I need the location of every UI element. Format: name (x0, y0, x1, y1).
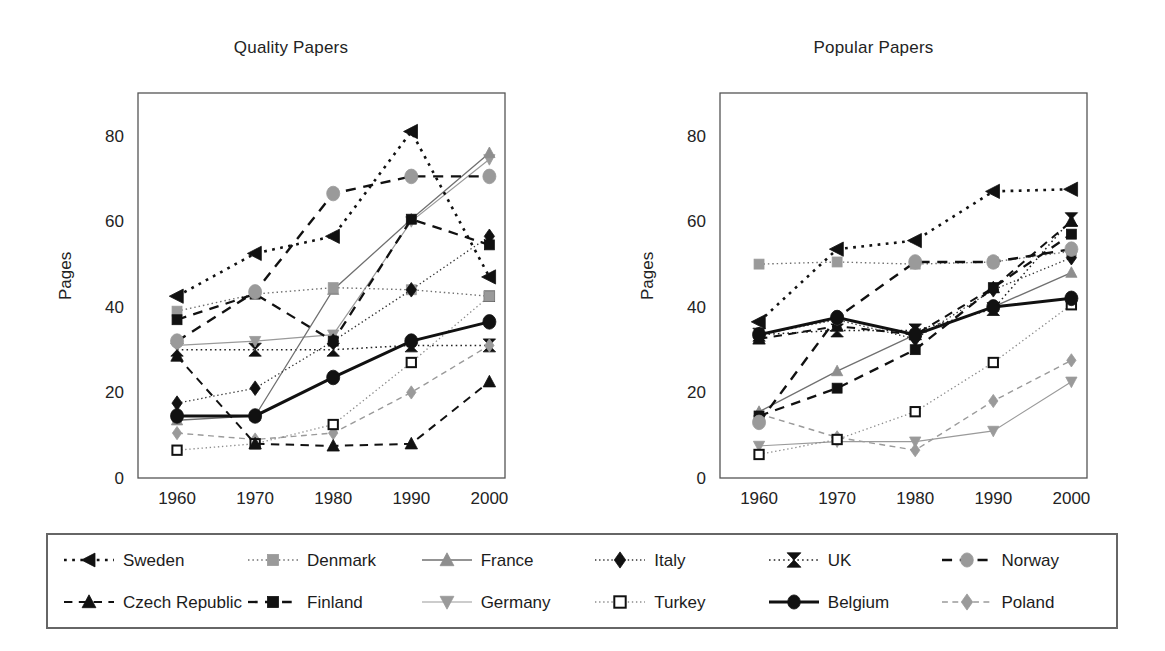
chart-panel-quality: Quality Papers Pages 0204060801960197019… (0, 0, 582, 520)
y-tick-label: 20 (105, 383, 124, 402)
y-tick-label: 60 (105, 212, 124, 231)
plot-area-popular: 02040608019601970198019902000 (582, 0, 1165, 520)
y-tick-label: 40 (105, 298, 124, 317)
legend-label: France (481, 552, 534, 569)
legend-box: SwedenDenmarkFranceItalyUKNorwayCzech Re… (46, 533, 1118, 629)
legend-item-turkey[interactable]: Turkey (589, 592, 763, 612)
x-tick-label: 1990 (392, 489, 430, 508)
legend-label: Italy (654, 552, 685, 569)
x-tick-label: 2000 (470, 489, 508, 508)
legend-label: Finland (307, 594, 363, 611)
diamond-marker (940, 592, 994, 612)
legend-label: Sweden (123, 552, 184, 569)
legend-item-germany[interactable]: Germany (416, 592, 590, 612)
x-tick-label: 1990 (974, 489, 1012, 508)
legend-item-finland[interactable]: Finland (242, 592, 416, 612)
legend-label: Poland (1001, 594, 1054, 611)
x-tick-label: 1960 (740, 489, 778, 508)
diamond-marker (593, 550, 647, 570)
x-tick-label: 2000 (1052, 489, 1090, 508)
x-tick-label: 1980 (896, 489, 934, 508)
down-triangle-marker (420, 592, 474, 612)
series-denmark (172, 283, 494, 316)
legend-item-france[interactable]: France (416, 550, 590, 570)
legend-label: Czech Republic (123, 594, 242, 611)
legend-label: Turkey (654, 594, 705, 611)
figure-root: Quality Papers Pages 0204060801960197019… (0, 0, 1165, 651)
left-triangle-marker (62, 550, 116, 570)
circle-marker (940, 550, 994, 570)
legend-item-italy[interactable]: Italy (589, 550, 763, 570)
y-tick-label: 60 (687, 212, 706, 231)
legend-item-uk[interactable]: UK (763, 550, 937, 570)
series-germany (171, 155, 495, 352)
square-marker (246, 592, 300, 612)
bowtie-marker (767, 550, 821, 570)
legend-label: Germany (481, 594, 551, 611)
legend-grid: SwedenDenmarkFranceItalyUKNorwayCzech Re… (48, 535, 1116, 627)
x-tick-label: 1970 (236, 489, 274, 508)
legend-item-norway[interactable]: Norway (936, 550, 1110, 570)
y-tick-label: 80 (687, 127, 706, 146)
y-tick-label: 0 (697, 469, 706, 488)
up-triangle-marker (420, 550, 474, 570)
legend-item-denmark[interactable]: Denmark (242, 550, 416, 570)
y-tick-label: 0 (115, 469, 124, 488)
legend-label: Belgium (828, 594, 889, 611)
y-tick-label: 20 (687, 383, 706, 402)
y-tick-label: 40 (687, 298, 706, 317)
legend-label: Denmark (307, 552, 376, 569)
chart-panel-popular: Popular Papers Pages 0204060801960197019… (582, 0, 1165, 520)
y-tick-label: 80 (105, 127, 124, 146)
x-tick-label: 1970 (818, 489, 856, 508)
series-belgium (753, 291, 1078, 342)
x-tick-label: 1960 (158, 489, 196, 508)
legend-item-poland[interactable]: Poland (936, 592, 1110, 612)
square-marker (246, 550, 300, 570)
open-square-marker (593, 592, 647, 612)
plot-area-quality: 02040608019601970198019902000 (0, 0, 582, 520)
legend-label: UK (828, 552, 852, 569)
legend-item-sweden[interactable]: Sweden (58, 550, 242, 570)
x-tick-label: 1980 (314, 489, 352, 508)
up-triangle-marker (62, 592, 116, 612)
series-sweden (169, 124, 495, 303)
circle-marker (767, 592, 821, 612)
legend-label: Norway (1001, 552, 1059, 569)
series-norway (171, 169, 496, 348)
legend-item-czech-republic[interactable]: Czech Republic (58, 592, 242, 612)
series-uk (753, 213, 1078, 341)
legend-item-belgium[interactable]: Belgium (763, 592, 937, 612)
